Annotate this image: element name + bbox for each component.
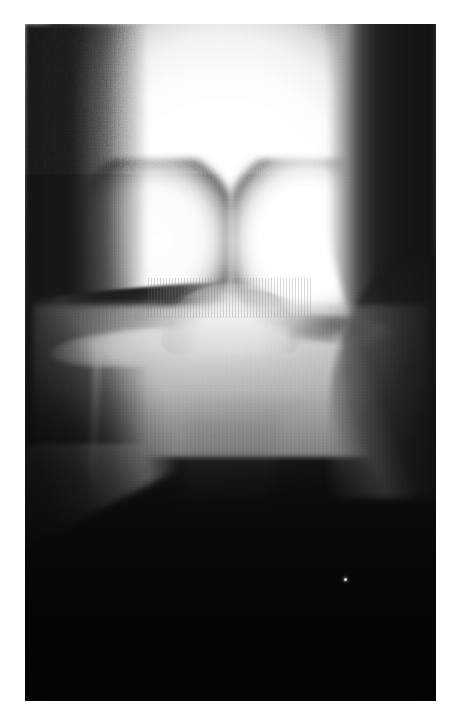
bright-speck-artifact [344,578,347,581]
page-root [0,0,459,727]
knee-radiograph [25,24,436,701]
vertical-striations-eminence [148,278,312,319]
